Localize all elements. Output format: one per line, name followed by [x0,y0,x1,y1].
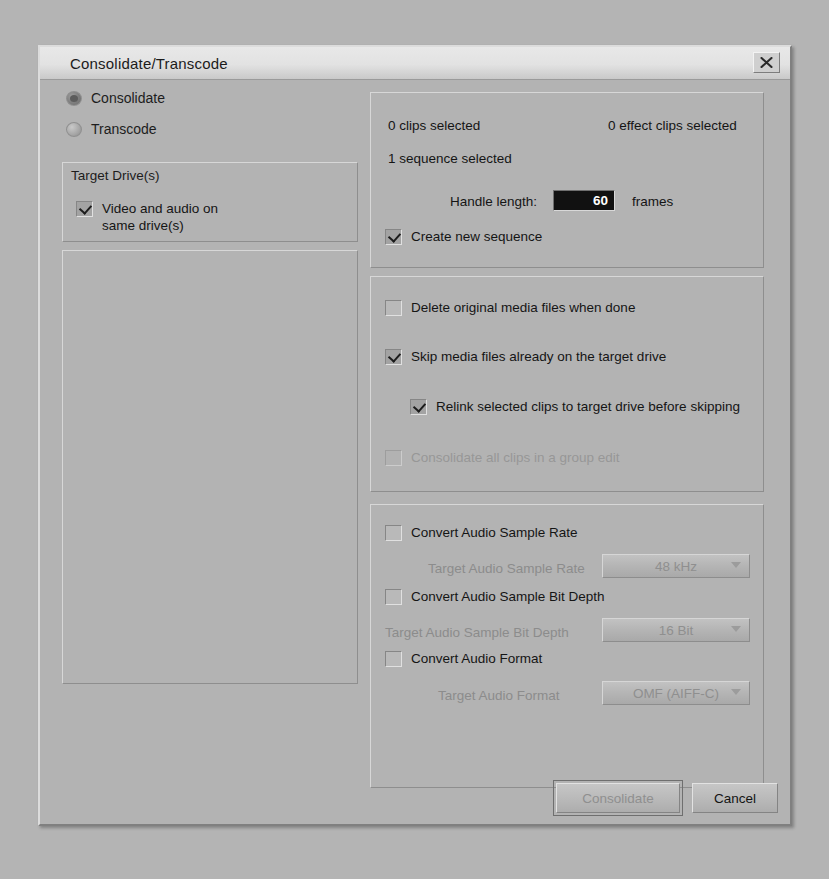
dialog-title: Consolidate/Transcode [70,55,228,72]
screen: Consolidate/Transcode Consolidate Transc… [0,0,829,879]
radio-transcode-indicator [66,122,82,137]
checkbox-video-audio-same-drive-box [76,201,93,217]
target-audio-format-select: OMF (AIFF-C) [602,681,750,705]
target-audio-sample-rate-value: 48 kHz [655,559,697,574]
dialog-body: Consolidate Transcode Target Drive(s) Vi… [40,80,790,826]
checkbox-skip-media-files-box [385,349,402,365]
chevron-down-icon [731,562,741,568]
checkbox-convert-audio-bit-depth[interactable]: Convert Audio Sample Bit Depth [385,588,605,605]
chevron-down-icon [731,689,741,695]
radio-transcode[interactable]: Transcode [66,121,157,137]
radio-consolidate-indicator [66,91,82,106]
checkbox-convert-audio-sample-rate-label: Convert Audio Sample Rate [411,524,578,541]
target-audio-format-value: OMF (AIFF-C) [633,686,719,701]
close-icon[interactable] [753,52,780,73]
clips-selected-text: 0 clips selected [388,118,480,133]
checkbox-skip-media-files[interactable]: Skip media files already on the target d… [385,348,666,365]
checkbox-convert-audio-sample-rate[interactable]: Convert Audio Sample Rate [385,524,578,541]
checkbox-consolidate-group-edit-label: Consolidate all clips in a group edit [411,449,620,466]
target-drives-group-title: Target Drive(s) [71,168,160,183]
radio-consolidate[interactable]: Consolidate [66,90,165,106]
checkbox-delete-original-media[interactable]: Delete original media files when done [385,299,635,316]
checkbox-create-new-sequence-box [385,229,402,245]
handle-length-input[interactable]: 60 [553,190,615,211]
checkbox-video-audio-same-drive-label-line1: Video and audio on [102,201,218,216]
checkbox-delete-original-media-box [385,300,402,316]
audio-options-panel [370,504,764,788]
checkbox-relink-selected-clips-box [410,399,427,415]
chevron-down-icon [731,626,741,632]
effect-clips-selected-text: 0 effect clips selected [608,118,737,133]
target-audio-sample-rate-label: Target Audio Sample Rate [428,561,585,576]
checkbox-convert-audio-format-label: Convert Audio Format [411,650,542,667]
radio-consolidate-label: Consolidate [91,90,165,106]
checkbox-convert-audio-bit-depth-box [385,589,402,605]
checkbox-video-audio-same-drive-label-line2: same drive(s) [102,218,184,233]
checkbox-create-new-sequence-label: Create new sequence [411,228,542,245]
checkbox-relink-selected-clips-label: Relink selected clips to target drive be… [436,398,740,415]
checkbox-create-new-sequence[interactable]: Create new sequence [385,228,542,245]
checkbox-delete-original-media-label: Delete original media files when done [411,299,635,316]
target-audio-bit-depth-label: Target Audio Sample Bit Depth [385,625,569,640]
checkbox-consolidate-group-edit-box [385,450,402,466]
consolidate-button: Consolidate [556,783,680,813]
checkbox-convert-audio-sample-rate-box [385,525,402,541]
checkbox-convert-audio-format[interactable]: Convert Audio Format [385,650,542,667]
video-drive-group [62,250,358,684]
cancel-button[interactable]: Cancel [692,783,778,813]
checkbox-relink-selected-clips[interactable]: Relink selected clips to target drive be… [410,398,740,415]
target-audio-format-label: Target Audio Format [438,688,560,703]
target-audio-bit-depth-select: 16 Bit [602,618,750,642]
dialog-titlebar: Consolidate/Transcode [40,47,790,80]
checkbox-consolidate-group-edit: Consolidate all clips in a group edit [385,449,620,466]
handle-length-label: Handle length: [450,194,537,209]
checkbox-convert-audio-bit-depth-label: Convert Audio Sample Bit Depth [411,588,605,605]
checkbox-video-audio-same-drive[interactable]: Video and audio on same drive(s) [76,200,316,234]
consolidate-transcode-dialog: Consolidate/Transcode Consolidate Transc… [38,45,792,826]
radio-transcode-label: Transcode [91,121,157,137]
checkbox-convert-audio-format-box [385,651,402,667]
checkbox-skip-media-files-label: Skip media files already on the target d… [411,348,666,365]
sequence-selected-text: 1 sequence selected [388,151,512,166]
target-audio-bit-depth-value: 16 Bit [659,623,694,638]
target-audio-sample-rate-select: 48 kHz [602,554,750,578]
frames-label: frames [632,194,673,209]
